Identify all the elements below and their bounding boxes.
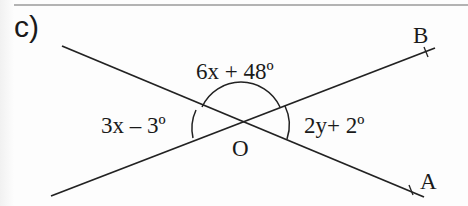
angle-label-right: 2y+ 2º [304,114,364,137]
angle-label-left: 3x – 3º [101,114,166,137]
tick-mark-a [409,185,413,195]
angle-arc-top [202,82,280,107]
angle-arc-right [285,106,289,139]
angle-arc-left [192,110,196,138]
angle-label-top: 6x + 48º [196,60,274,83]
intersecting-lines-diagram [0,0,468,206]
point-label-o: O [232,137,249,160]
worksheet-page: c) 6x + 48º 3x – 3º 2y+ 2º O A B [0,0,468,206]
point-label-a: A [420,170,437,193]
part-label: c) [14,12,39,42]
point-label-b: B [413,24,428,47]
